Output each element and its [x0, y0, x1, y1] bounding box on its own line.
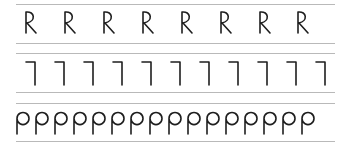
letter-r-glyph — [221, 12, 231, 33]
corner-stroke-glyph — [84, 62, 93, 85]
letter-r-glyph — [260, 12, 270, 33]
corner-stroke-glyph — [26, 62, 35, 85]
corner-stroke-glyph — [316, 62, 325, 85]
letter-r-glyph — [65, 12, 75, 33]
corner-stroke-glyph — [200, 62, 209, 85]
letter-p-glyph — [302, 113, 314, 134]
corner-stroke-glyph — [258, 62, 267, 85]
letter-r-glyph — [182, 12, 192, 33]
corner-stroke-glyph — [113, 62, 122, 85]
letter-p-glyph — [188, 113, 200, 134]
corner-stroke-glyph — [55, 62, 64, 85]
letter-r-glyph — [298, 12, 308, 33]
letter-p-glyph — [112, 113, 124, 134]
letter-p-glyph — [245, 113, 257, 134]
letter-r-glyph — [143, 12, 153, 33]
letter-p-glyph — [74, 113, 86, 134]
letter-p-glyph — [93, 113, 105, 134]
letter-p-glyph — [17, 113, 29, 134]
letter-p-glyph — [283, 113, 295, 134]
corner-stroke-glyph — [142, 62, 151, 85]
corner-stroke-glyph — [229, 62, 238, 85]
letter-p-glyph — [131, 113, 143, 134]
letter-p-glyph — [264, 113, 276, 134]
corner-stroke-glyph — [287, 62, 296, 85]
letter-p-glyph — [55, 113, 67, 134]
worksheet-canvas — [0, 0, 341, 147]
corner-stroke-glyph — [171, 62, 180, 85]
letter-p-glyph — [36, 113, 48, 134]
handwriting-worksheet: Handwriting practice sheet Row 1: letter… — [0, 0, 341, 147]
letter-p-glyph — [150, 113, 162, 134]
letter-p-glyph — [207, 113, 219, 134]
letter-p-glyph — [169, 113, 181, 134]
letter-r-glyph — [104, 12, 114, 33]
letter-p-glyph — [226, 113, 238, 134]
letter-r-glyph — [26, 12, 36, 33]
